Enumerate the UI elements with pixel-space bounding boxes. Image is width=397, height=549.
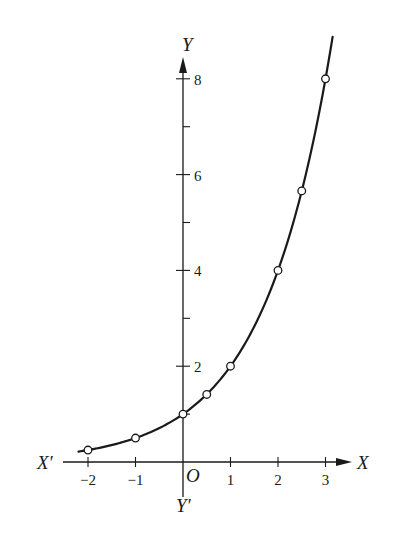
x-tick-label: 3 [322, 472, 330, 488]
data-point-marker [179, 410, 187, 418]
y-axis-arrow-icon [179, 57, 187, 73]
y-tick-label: 6 [194, 168, 202, 184]
data-point-marker [322, 75, 330, 83]
data-point-marker [203, 391, 211, 399]
exponential-graph: −2−11232468 Y X X′ Y′ O [0, 0, 397, 549]
x-axis-label: X [356, 452, 370, 473]
data-points [84, 75, 329, 454]
data-point-marker [84, 446, 92, 454]
y-tick-label: 4 [194, 263, 202, 279]
x-tick-label: −2 [80, 472, 96, 488]
x-tick-label: −1 [128, 472, 144, 488]
curve [79, 37, 333, 452]
axes: −2−11232468 [63, 57, 352, 497]
x-axis-arrow-icon [336, 458, 352, 466]
x-axis-negative-label: X′ [36, 452, 54, 473]
y-tick-label: 8 [194, 72, 202, 88]
origin-label: O [186, 465, 200, 486]
data-point-marker [274, 267, 282, 275]
y-axis-label: Y [182, 34, 195, 55]
x-tick-label: 1 [227, 472, 235, 488]
curve-line [79, 37, 333, 452]
data-point-marker [298, 187, 306, 195]
data-point-marker [227, 362, 235, 370]
y-tick-label: 2 [194, 359, 202, 375]
x-tick-label: 2 [274, 472, 282, 488]
data-point-marker [132, 434, 140, 442]
y-axis-negative-label: Y′ [176, 495, 192, 516]
